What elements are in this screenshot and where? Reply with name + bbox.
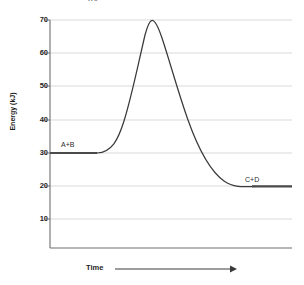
- products-label: C+D: [245, 176, 259, 183]
- y-axis-ticks: [45, 20, 50, 219]
- x-axis-title: Time: [86, 263, 103, 272]
- energy-profile-chart: gy 70 60 50 40 30 20 10 Energy (kJ): [0, 0, 304, 285]
- x-axis-label-group: Time: [86, 262, 246, 276]
- energy-profile-curve: [97, 20, 255, 186]
- plot-area: [0, 0, 304, 285]
- gridlines: [50, 20, 292, 219]
- reactants-label: A+B: [61, 141, 74, 148]
- time-arrow-icon: [115, 264, 239, 274]
